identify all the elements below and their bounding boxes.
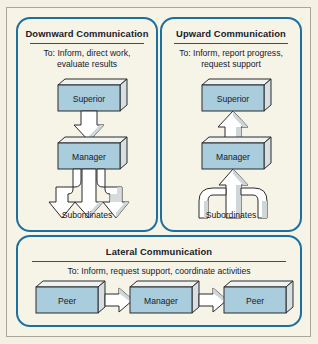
node-label: Manager: [144, 296, 178, 306]
node-superior-upward: Superior: [202, 79, 271, 111]
node-peer-left: Peer: [36, 281, 105, 313]
upward-flow-graphic: Superior Manager: [162, 19, 304, 234]
node-label: Manager: [72, 152, 106, 162]
node-manager-upward: Manager: [202, 137, 271, 169]
node-label: Manager: [216, 152, 250, 162]
node-label: Superior: [73, 94, 106, 104]
node-manager-lateral: Manager: [130, 281, 199, 313]
downward-flow-graphic: Superior Manager: [18, 19, 160, 234]
node-label: Peer: [246, 296, 264, 306]
arrow-peer-left-to-manager: [105, 288, 133, 312]
panel-upward-communication: Upward Communication To: Inform, report …: [160, 17, 302, 232]
panel-lateral-communication: Lateral Communication To: Inform, reques…: [16, 235, 302, 327]
node-manager-downward: Manager: [58, 137, 127, 169]
node-superior-downward: Superior: [58, 79, 127, 111]
diagram-canvas: Downward Communication To: Inform, direc…: [0, 0, 318, 344]
panel-downward-foot-label: Subordinates: [18, 210, 156, 220]
panel-upward-foot-label: Subordinates: [162, 210, 300, 220]
node-label: Peer: [58, 296, 76, 306]
node-peer-right: Peer: [224, 281, 293, 313]
node-label: Superior: [217, 94, 250, 104]
panel-downward-communication: Downward Communication To: Inform, direc…: [16, 17, 158, 232]
lateral-flow-graphic: Peer Manager: [18, 237, 304, 329]
arrow-manager-to-peer-right: [199, 288, 227, 312]
